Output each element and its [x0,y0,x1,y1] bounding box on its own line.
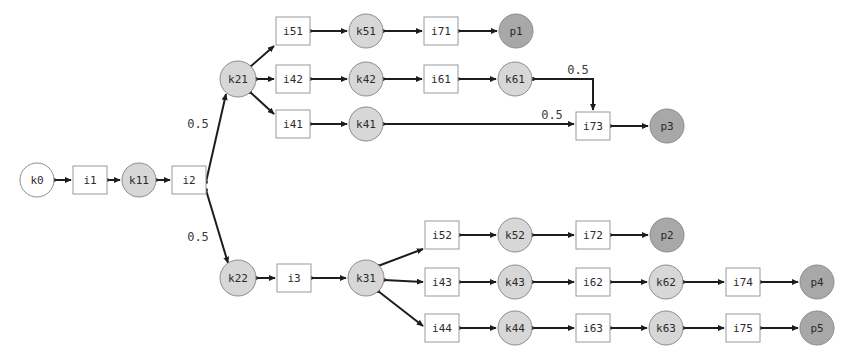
node-k11[interactable]: k11 [122,163,156,197]
edge-k61-to-i73 [533,79,593,110]
node-label-i72: i72 [583,229,603,242]
node-label-p4: p4 [810,276,824,289]
node-label-i2: i2 [182,174,195,187]
node-label-i73: i73 [583,120,603,133]
node-i63[interactable]: i63 [576,314,610,342]
node-label-i3: i3 [287,272,300,285]
node-label-k43: k43 [505,276,525,289]
edge-weight-label: 0.5 [187,230,209,244]
node-p3[interactable]: p3 [650,109,684,143]
node-label-k31: k31 [356,272,376,285]
edge-k31-to-i43 [384,280,423,282]
node-i2[interactable]: i2 [172,166,206,194]
node-label-i71: i71 [431,25,451,38]
node-label-k62: k62 [656,276,676,289]
node-label-i44: i44 [432,322,452,335]
node-label-p5: p5 [810,322,823,335]
edge-k21-to-i41 [250,92,274,114]
edge-weight-label: 0.5 [567,63,589,77]
node-k52[interactable]: k52 [498,218,532,252]
node-i73[interactable]: i73 [576,112,610,140]
node-label-i42: i42 [283,73,303,86]
edge-i2-to-k22 [206,190,228,263]
node-label-p1: p1 [509,25,522,38]
node-label-i63: i63 [583,322,603,335]
node-k41[interactable]: k41 [349,107,383,141]
node-label-p2: p2 [660,229,673,242]
node-i52[interactable]: i52 [425,221,459,249]
node-label-k22: k22 [228,272,248,285]
node-label-i62: i62 [583,276,603,289]
edge-k31-to-i52 [378,249,423,266]
node-k63[interactable]: k63 [649,311,683,345]
node-k43[interactable]: k43 [498,265,532,299]
node-i43[interactable]: i43 [425,268,459,296]
node-label-k11: k11 [129,174,149,187]
node-layer: k0i1k11i2k21i51k51i71p1i42k42i61k61i41k4… [20,14,834,345]
node-k61[interactable]: k61 [498,62,532,96]
diagram-canvas: k0i1k11i2k21i51k51i71p1i42k42i61k61i41k4… [0,0,847,351]
node-label-i74: i74 [733,276,753,289]
node-k51[interactable]: k51 [349,14,383,48]
node-label-k0: k0 [30,174,43,187]
node-label-k42: k42 [356,73,376,86]
node-p4[interactable]: p4 [800,265,834,299]
node-i42[interactable]: i42 [276,65,310,93]
node-p5[interactable]: p5 [800,311,834,345]
node-label-k63: k63 [656,322,676,335]
node-label-i52: i52 [432,229,452,242]
node-k21[interactable]: k21 [220,61,256,97]
node-k31[interactable]: k31 [348,260,384,296]
node-label-i43: i43 [432,276,452,289]
node-i1[interactable]: i1 [73,166,107,194]
node-k22[interactable]: k22 [220,260,256,296]
node-label-k44: k44 [505,322,525,335]
node-i41[interactable]: i41 [276,110,310,138]
node-label-i1: i1 [83,174,96,187]
node-i61[interactable]: i61 [424,65,458,93]
node-p2[interactable]: p2 [650,218,684,252]
node-i72[interactable]: i72 [576,221,610,249]
edge-weight-label: 0.5 [541,108,563,122]
edge-i2-to-k21 [206,94,226,182]
node-label-k21: k21 [228,73,248,86]
node-label-k51: k51 [356,25,376,38]
node-label-i61: i61 [431,73,451,86]
node-i75[interactable]: i75 [726,314,760,342]
node-p1[interactable]: p1 [499,14,533,48]
node-k62[interactable]: k62 [649,265,683,299]
node-k44[interactable]: k44 [498,311,532,345]
node-label-k41: k41 [356,118,376,131]
node-i74[interactable]: i74 [726,268,760,296]
graph-svg: k0i1k11i2k21i51k51i71p1i42k42i61k61i41k4… [0,0,847,351]
node-label-i51: i51 [283,25,303,38]
node-i71[interactable]: i71 [424,17,458,45]
edge-k21-to-i51 [250,46,274,67]
node-i62[interactable]: i62 [576,268,610,296]
node-label-i75: i75 [733,322,753,335]
edge-k31-to-i44 [378,291,423,326]
node-label-k52: k52 [505,229,525,242]
node-label-p3: p3 [660,120,673,133]
node-i44[interactable]: i44 [425,314,459,342]
edge-weight-label: 0.5 [187,117,209,131]
node-label-i41: i41 [283,118,303,131]
node-label-k61: k61 [505,73,525,86]
node-k0[interactable]: k0 [20,163,54,197]
node-k42[interactable]: k42 [349,62,383,96]
node-i51[interactable]: i51 [276,17,310,45]
node-i3[interactable]: i3 [277,264,311,292]
